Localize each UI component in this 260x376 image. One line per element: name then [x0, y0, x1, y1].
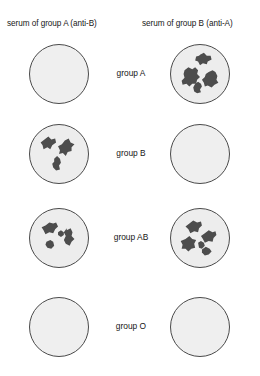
chart-row: group O	[0, 297, 260, 359]
well-group-o-serum-b	[170, 297, 230, 357]
clump-cluster-empty	[171, 125, 229, 183]
well-group-b-serum-a	[29, 124, 89, 184]
chart-row: group A	[0, 44, 260, 106]
clump-cluster-empty	[171, 298, 229, 356]
well-group-a-serum-b	[170, 44, 230, 104]
row-label-group-o: group O	[95, 321, 167, 331]
clump-cluster-empty	[30, 45, 88, 103]
chart-row: group B	[0, 124, 260, 186]
well-group-o-serum-a	[29, 297, 89, 357]
clump-cluster	[30, 125, 88, 183]
clump-cluster	[30, 209, 88, 267]
well-group-a-serum-a	[29, 44, 89, 104]
well-group-ab-serum-a	[29, 208, 89, 268]
well-group-b-serum-b	[170, 124, 230, 184]
chart-row: group AB	[0, 208, 260, 270]
column-header-serum-b: serum of group B (anti-A)	[142, 19, 233, 29]
well-group-ab-serum-b	[170, 208, 230, 268]
clump-cluster-empty	[30, 298, 88, 356]
agglutination-chart: serum of group A (anti-B) serum of group…	[0, 0, 260, 376]
clump-cluster	[171, 45, 229, 103]
row-label-group-a: group A	[95, 68, 167, 78]
clump-cluster	[171, 209, 229, 267]
row-label-group-ab: group AB	[95, 232, 167, 242]
row-label-group-b: group B	[95, 148, 167, 158]
column-header-serum-a: serum of group A (anti-B)	[7, 19, 97, 29]
